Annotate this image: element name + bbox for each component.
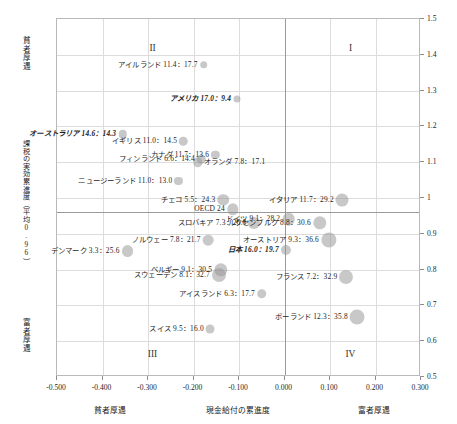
- data-bubble: [212, 268, 226, 282]
- point-label: イタリア 11.7：29.2: [269, 196, 334, 203]
- point-label: アイスランド 6.3：17.7: [179, 290, 255, 297]
- point-label: オーストラリア 14.6：14.3: [29, 131, 116, 138]
- x-tick-mark: [147, 376, 148, 380]
- data-bubble: [321, 232, 336, 247]
- y-tick-label: 1.1: [427, 157, 437, 166]
- gridline-horizontal: [57, 234, 419, 235]
- point-label: ニュージーランド 11.0：13.0: [78, 177, 172, 184]
- y-tick-mark: [420, 18, 424, 19]
- x-tick-label: -0.100: [228, 383, 248, 392]
- data-bubble: [257, 289, 267, 299]
- x-axis-right-annotation: 富者厚遇: [358, 404, 390, 415]
- point-label: オーストリア 9.3：36.6: [243, 236, 319, 243]
- y-axis-title: 課税の実効累進度（平均0.96）: [22, 140, 29, 266]
- data-bubble: [203, 235, 214, 246]
- bubble-chart: 貧者厚遇 課税の実効累進度（平均0.96） 富者厚遇 IIIIIIIVアイルラン…: [0, 0, 457, 424]
- gridline-horizontal: [57, 198, 419, 199]
- y-tick-label: 0.6: [427, 336, 437, 345]
- x-tick-mark: [238, 376, 239, 380]
- gridline-vertical: [103, 19, 104, 375]
- data-bubble: [336, 194, 349, 207]
- x-tick-mark: [56, 376, 57, 380]
- y-tick-mark: [420, 304, 424, 305]
- y-tick-label: 0.8: [427, 264, 437, 273]
- y-tick-label: 1.4: [427, 49, 437, 58]
- data-bubble: [174, 177, 182, 185]
- point-label: 日本 16.0：19.7: [228, 246, 279, 253]
- x-tick-label: -0.500: [46, 383, 66, 392]
- data-bubble: [227, 204, 238, 215]
- gridline-vertical: [239, 19, 240, 375]
- data-bubble: [179, 137, 188, 146]
- y-tick-mark: [420, 125, 424, 126]
- point-label: スロバキア 7.3：26.0: [178, 219, 247, 226]
- data-bubble: [339, 270, 353, 284]
- gridline-horizontal: [57, 341, 419, 342]
- y-tick-label: 1.3: [427, 85, 437, 94]
- y-tick-mark: [420, 376, 424, 377]
- quadrant-label-i: I: [349, 43, 352, 53]
- x-tick-mark: [284, 376, 285, 380]
- data-bubble: [206, 325, 215, 334]
- point-label: フランス 7.2：32.9: [276, 273, 338, 280]
- gridline-horizontal: [57, 305, 419, 306]
- data-bubble: [233, 95, 240, 102]
- data-bubble: [313, 216, 326, 229]
- x-tick-label: 0.000: [275, 383, 292, 392]
- point-label: スウェーデン 8.1：32.7: [134, 271, 210, 278]
- point-label: アイルランド 11.4：17.7: [118, 61, 198, 68]
- point-label: オランダ 7.8：17.1: [204, 158, 266, 165]
- point-label: アメリカ 17.0：9.4: [170, 95, 232, 102]
- point-label: デンマーク 3.3：25.6: [51, 247, 120, 254]
- x-tick-label: 0.200: [366, 383, 383, 392]
- gridline-vertical: [148, 19, 149, 375]
- y-axis-top-annotation: 貧者厚遇: [22, 36, 30, 70]
- x-tick-mark: [102, 376, 103, 380]
- y-tick-label: 1.2: [427, 121, 437, 130]
- y-tick-label: 1: [427, 193, 431, 202]
- x-tick-mark: [375, 376, 376, 380]
- gridline-horizontal: [57, 55, 419, 56]
- data-bubble: [281, 245, 291, 255]
- plot-area: IIIIIIIVアイルランド 11.4：17.7アメリカ 17.0：9.4オース…: [56, 18, 420, 376]
- gridline-horizontal: [57, 126, 419, 127]
- x-axis-left-annotation: 貧者厚遇: [94, 404, 126, 415]
- quadrant-label-iv: IV: [345, 349, 355, 359]
- y-tick-mark: [420, 197, 424, 198]
- quadrant-label-iii: III: [148, 349, 158, 359]
- data-bubble: [200, 61, 208, 69]
- y-tick-mark: [420, 161, 424, 162]
- point-label: ポーランド 12.3：35.8: [275, 313, 348, 320]
- x-tick-label: -0.300: [137, 383, 157, 392]
- data-bubble: [350, 309, 365, 324]
- x-tick-mark: [329, 376, 330, 380]
- x-tick-mark: [193, 376, 194, 380]
- y-tick-label: 0.5: [427, 372, 437, 381]
- point-label: スイス 9.5：16.0: [149, 326, 203, 333]
- y-tick-mark: [420, 54, 424, 55]
- point-label: OECD 24: [194, 206, 225, 213]
- gridline-horizontal: [57, 91, 419, 92]
- quadrant-label-ii: II: [149, 43, 155, 53]
- y-tick-mark: [420, 340, 424, 341]
- y-tick-mark: [420, 233, 424, 234]
- y-tick-mark: [420, 269, 424, 270]
- x-tick-label: -0.200: [183, 383, 203, 392]
- reference-line-horizontal: [57, 212, 419, 213]
- x-tick-label: 0.300: [411, 383, 428, 392]
- point-label: イギリス 11.0：14.5: [112, 138, 177, 145]
- data-bubble: [122, 245, 134, 257]
- point-label: フィンランド 6.6：14.4: [119, 156, 195, 163]
- y-tick-label: 0.7: [427, 300, 437, 309]
- y-tick-label: 0.9: [427, 228, 437, 237]
- point-label: ノルウェー 7.8：21.7: [132, 237, 201, 244]
- gridline-vertical: [376, 19, 377, 375]
- x-tick-label: -0.400: [92, 383, 112, 392]
- y-tick-label: 1.5: [427, 14, 437, 23]
- point-label: チェコ 5.5：24.3: [161, 196, 215, 203]
- y-tick-mark: [420, 90, 424, 91]
- gridline-horizontal: [57, 270, 419, 271]
- y-axis-bottom-annotation: 富者厚遇: [22, 318, 30, 352]
- x-tick-label: 0.100: [320, 383, 337, 392]
- x-axis-title: 現金給付の累進度: [206, 404, 270, 415]
